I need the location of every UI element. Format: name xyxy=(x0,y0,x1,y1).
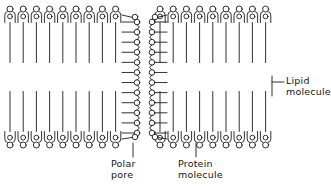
lipid-head-inner-circle xyxy=(21,14,26,19)
lipid-head-inner-circle xyxy=(210,14,215,19)
lipid-head-inner-circle xyxy=(184,14,189,19)
protein-bead xyxy=(149,80,155,86)
protein-chain-link xyxy=(137,65,139,69)
protein-chain-link xyxy=(150,35,152,39)
protein-chain-link xyxy=(150,106,152,110)
label-polar-line1: Polar xyxy=(111,158,136,169)
lipid-head-outer-circle xyxy=(113,142,119,148)
lipid-head-outer-circle xyxy=(263,6,269,12)
protein-bead xyxy=(134,90,140,96)
lipid-head-outer-circle xyxy=(60,6,66,12)
protein-anchor-bead xyxy=(152,134,158,140)
lipid-head-outer-circle xyxy=(249,142,255,148)
protein-chain-link xyxy=(150,55,152,59)
protein-bead xyxy=(149,49,155,55)
protein-chain-link xyxy=(137,45,139,49)
lipid-head-outer-circle xyxy=(236,6,242,12)
protein-chain-link xyxy=(137,95,139,99)
protein-anchor-bead xyxy=(132,134,138,140)
protein-chain-link xyxy=(137,85,139,89)
lipid-head-outer-circle xyxy=(263,142,269,148)
lipid-head-outer-circle xyxy=(86,6,92,12)
lipid-head-outer-circle xyxy=(86,142,92,148)
protein-bead xyxy=(149,90,155,96)
label-protein-line2: molecule xyxy=(178,169,223,180)
protein-chain-link xyxy=(137,106,139,110)
protein-bead xyxy=(149,29,155,35)
lipid-head-inner-circle xyxy=(263,14,268,19)
protein-bead xyxy=(134,39,140,45)
lipid-head-outer-circle xyxy=(249,6,255,12)
lipid-head-inner-circle xyxy=(197,135,202,140)
lipid-head-outer-circle xyxy=(210,142,216,148)
protein-bead xyxy=(134,80,140,86)
lipid-head-outer-circle xyxy=(99,142,105,148)
label-lipid-line2: molecule xyxy=(286,86,331,97)
lipid-head-inner-circle xyxy=(250,14,255,19)
lipid-head-outer-circle xyxy=(73,6,79,12)
protein-bead xyxy=(134,120,140,126)
lipid-head-inner-circle xyxy=(21,135,26,140)
lipid-head-outer-circle xyxy=(223,142,229,148)
lipid-head-outer-circle xyxy=(20,142,26,148)
protein-chain-link xyxy=(150,126,152,130)
protein-bead xyxy=(149,60,155,66)
lipid-head-inner-circle xyxy=(171,14,176,19)
protein-chain-link xyxy=(137,75,139,79)
lipid-head-outer-circle xyxy=(197,142,203,148)
lipid-head-outer-circle xyxy=(33,142,39,148)
lipid-head-inner-circle xyxy=(34,135,39,140)
protein-anchor-bead xyxy=(132,14,138,20)
protein-bead xyxy=(149,120,155,126)
lipid-head-inner-circle xyxy=(74,14,79,19)
lipid-head-outer-circle xyxy=(170,6,176,12)
lipid-head-inner-circle xyxy=(113,14,118,19)
protein-bead xyxy=(149,70,155,76)
protein-chain-link xyxy=(150,116,152,120)
lipid-head-inner-circle xyxy=(74,135,79,140)
protein-bead xyxy=(149,110,155,116)
protein-chain-link xyxy=(137,116,139,120)
lipid-head-inner-circle xyxy=(100,135,105,140)
label-protein-line1: Protein xyxy=(178,158,223,169)
label-polar-line2: pore xyxy=(111,169,136,180)
protein-bead xyxy=(149,100,155,106)
protein-bead xyxy=(134,70,140,76)
lipid-head-inner-circle xyxy=(184,135,189,140)
lipid-head-outer-circle xyxy=(60,142,66,148)
protein-chain-link xyxy=(150,25,152,29)
protein-anchor-bead xyxy=(152,14,158,20)
lipid-head-outer-circle xyxy=(47,6,53,12)
label-lipid-line1: Lipid xyxy=(286,75,331,86)
lipid-head-outer-circle xyxy=(183,142,189,148)
protein-chain-link xyxy=(150,95,152,99)
lipid-head-outer-circle xyxy=(7,6,13,12)
lipid-head-inner-circle xyxy=(34,14,39,19)
lipid-head-inner-circle xyxy=(113,135,118,140)
protein-bead xyxy=(134,29,140,35)
lipid-head-inner-circle xyxy=(60,14,65,19)
label-polar-pore: Polar pore xyxy=(111,158,136,180)
label-lipid-molecule: Lipid molecule xyxy=(286,75,331,97)
lipid-head-outer-circle xyxy=(170,142,176,148)
lipid-head-inner-circle xyxy=(197,14,202,19)
lipid-head-outer-circle xyxy=(7,142,13,148)
lipid-head-inner-circle xyxy=(100,14,105,19)
protein-bead xyxy=(134,49,140,55)
lipid-head-outer-circle xyxy=(157,142,163,148)
lipid-head-inner-circle xyxy=(60,135,65,140)
lipid-head-inner-circle xyxy=(250,135,255,140)
protein-bead xyxy=(134,100,140,106)
protein-chain-link xyxy=(150,85,152,89)
protein-bead xyxy=(134,60,140,66)
protein-bead xyxy=(134,110,140,116)
protein-chain-link xyxy=(137,25,139,29)
lipid-head-inner-circle xyxy=(8,14,13,19)
lipid-head-inner-circle xyxy=(237,135,242,140)
lipid-head-outer-circle xyxy=(73,142,79,148)
lipid-head-outer-circle xyxy=(33,6,39,12)
lipid-head-inner-circle xyxy=(237,14,242,19)
lipid-head-outer-circle xyxy=(210,6,216,12)
lipid-head-inner-circle xyxy=(87,135,92,140)
